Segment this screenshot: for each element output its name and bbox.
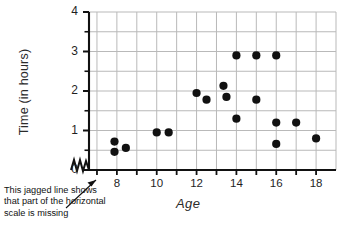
- x-tick-label: 12: [185, 177, 209, 189]
- data-point-5: [192, 89, 200, 97]
- y-tick-label: 4: [62, 4, 78, 18]
- data-point-2: [122, 144, 130, 152]
- data-point-15: [272, 140, 280, 148]
- data-points: [110, 51, 320, 156]
- data-point-6: [202, 96, 210, 104]
- y-tick-label: 2: [62, 83, 78, 97]
- x-tick-label: 18: [304, 177, 328, 189]
- data-point-10: [232, 115, 240, 123]
- data-point-12: [252, 96, 260, 104]
- y-tick-label: 1: [62, 123, 78, 137]
- data-point-8: [222, 93, 230, 101]
- x-axis-label: Age: [176, 196, 200, 211]
- data-point-0: [110, 137, 118, 145]
- data-point-17: [312, 134, 320, 142]
- data-point-4: [165, 128, 173, 136]
- axis-break-annotation-text: This jagged line shows that part of the …: [4, 185, 108, 219]
- data-point-9: [232, 51, 240, 59]
- data-point-11: [252, 51, 260, 59]
- x-tick-label: 14: [224, 177, 248, 189]
- data-point-7: [219, 82, 227, 90]
- data-point-13: [272, 51, 280, 59]
- data-point-14: [272, 119, 280, 127]
- scatter-plot-figure: Time (in hours) Age This jagged line sho…: [0, 0, 342, 238]
- x-tick-label: 10: [145, 177, 169, 189]
- x-tick-label: 8: [105, 177, 129, 189]
- data-point-1: [110, 148, 118, 156]
- x-tick-label: 16: [264, 177, 288, 189]
- y-tick-label: 3: [62, 44, 78, 58]
- data-point-16: [292, 119, 300, 127]
- y-axis-label: Time (in hours): [17, 22, 31, 162]
- data-point-3: [153, 128, 161, 136]
- y-tick-label: 0: [62, 162, 78, 176]
